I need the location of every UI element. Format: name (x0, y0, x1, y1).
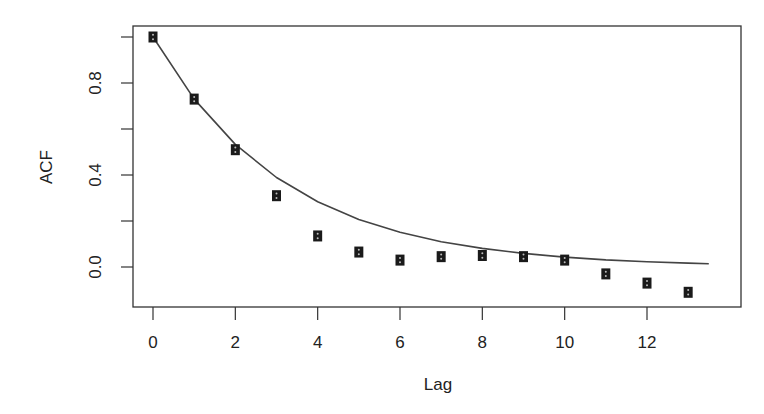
y-tick-label: 0.4 (86, 163, 105, 187)
x-tick-label: 8 (478, 333, 487, 352)
x-tick-label: 2 (231, 333, 240, 352)
x-tick-label: 12 (638, 333, 657, 352)
data-point (149, 32, 158, 43)
data-point (231, 144, 240, 155)
data-point (272, 190, 281, 201)
data-point (684, 287, 693, 298)
x-tick-label: 10 (555, 333, 574, 352)
data-point (519, 251, 528, 262)
x-axis-label: Lag (424, 375, 452, 394)
data-point (643, 278, 652, 289)
data-point (313, 230, 322, 241)
x-tick-label: 4 (313, 333, 322, 352)
plot-frame (133, 26, 741, 307)
acf-chart: 0.00.40.8 024681012 Lag ACF (0, 0, 764, 414)
data-point (478, 250, 487, 261)
data-point (437, 251, 446, 262)
x-tick-label: 6 (395, 333, 404, 352)
y-axis-label: ACF (37, 150, 56, 184)
x-axis: 024681012 (148, 307, 656, 352)
data-point (560, 255, 569, 266)
data-point (601, 268, 610, 279)
sample-acf-points (149, 32, 693, 298)
y-tick-label: 0.0 (86, 255, 105, 279)
data-point (396, 255, 405, 266)
data-point (190, 94, 199, 105)
y-tick-label: 0.8 (86, 71, 105, 95)
y-axis: 0.00.40.8 (86, 37, 133, 279)
x-tick-label: 0 (148, 333, 157, 352)
data-point (354, 247, 363, 258)
